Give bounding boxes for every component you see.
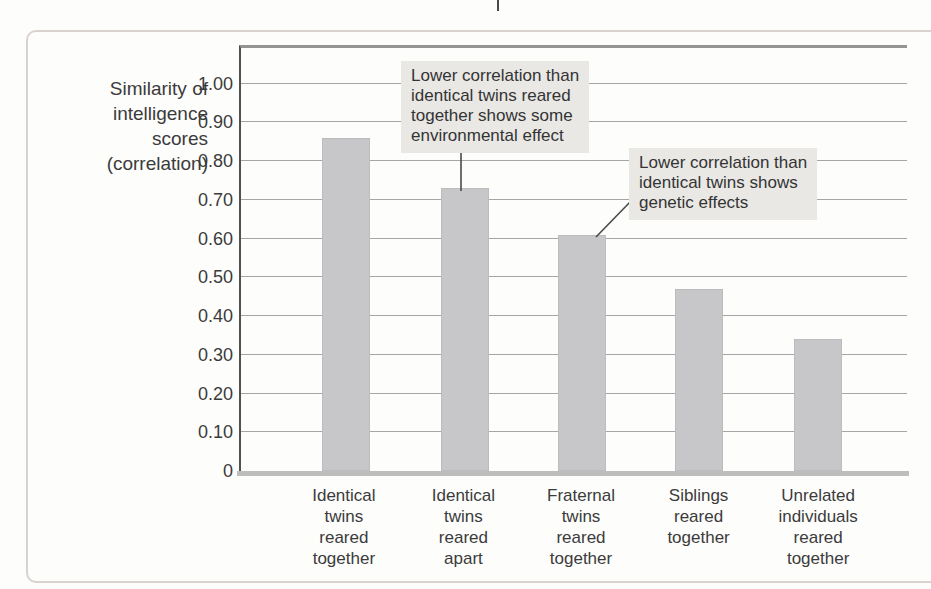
bar-3 xyxy=(675,289,723,471)
connector-line-diagonal xyxy=(596,200,632,237)
x-axis-labels: Identical twins reared togetherIdentical… xyxy=(239,485,907,580)
annotation-genetic-effects: Lower correlation than identical twins s… xyxy=(629,148,817,220)
y-tick-label: 0.80 xyxy=(198,151,233,172)
y-tick-label: 0.70 xyxy=(198,189,233,210)
bar-4 xyxy=(794,339,842,471)
bar-2 xyxy=(558,235,606,471)
plot-area: Lower correlation than identical twins r… xyxy=(239,45,907,471)
y-tick-label: 0.60 xyxy=(198,228,233,249)
scanned-figure-page: Similarity of intelligence scores (corre… xyxy=(0,0,931,589)
y-tick-label: 0 xyxy=(223,461,233,482)
y-axis-ticks: 1.000.900.800.700.600.500.400.300.200.10… xyxy=(176,45,233,471)
y-tick-label: 0.40 xyxy=(198,306,233,327)
y-tick-label: 0.50 xyxy=(198,267,233,288)
bar-1 xyxy=(441,188,489,471)
figure-panel: Similarity of intelligence scores (corre… xyxy=(26,30,931,583)
y-tick-label: 0.10 xyxy=(198,422,233,443)
annotation-environmental-effect: Lower correlation than identical twins r… xyxy=(401,61,589,153)
y-tick-label: 0.90 xyxy=(198,112,233,133)
page-divider-tick xyxy=(497,0,499,11)
bar-0 xyxy=(322,138,370,471)
x-category-label: Unrelated individuals reared together xyxy=(748,485,888,569)
y-tick-label: 0.30 xyxy=(198,344,233,365)
y-tick-label: 0.20 xyxy=(198,383,233,404)
y-tick-label: 1.00 xyxy=(198,73,233,94)
x-axis-baseline xyxy=(237,471,909,476)
